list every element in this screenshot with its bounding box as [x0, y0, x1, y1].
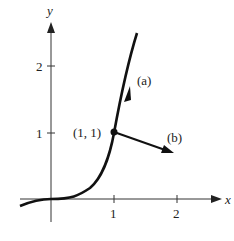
y-axis-arrow-icon	[47, 22, 55, 33]
point-label: (1, 1)	[73, 126, 101, 139]
normal-arrow-icon	[161, 145, 174, 153]
x-axis-arrow-icon	[211, 195, 222, 203]
diagram: y x 1 2 1 2 (1, 1) (a) (b)	[0, 0, 234, 241]
y-tick-label-2: 2	[36, 60, 43, 73]
x-tick-label-2: 2	[173, 207, 180, 220]
y-axis-label: y	[47, 4, 53, 17]
normal-vector	[114, 132, 168, 151]
y-tick-label-1: 1	[36, 127, 43, 140]
x-axis-label: x	[225, 193, 231, 206]
vector-a-label: (a)	[137, 74, 151, 87]
tangent-arrow-icon	[124, 86, 131, 102]
vector-b-label: (b)	[167, 131, 182, 144]
x-tick-label-1: 1	[110, 207, 117, 220]
plot-svg	[0, 0, 234, 241]
point-marker	[111, 129, 118, 136]
